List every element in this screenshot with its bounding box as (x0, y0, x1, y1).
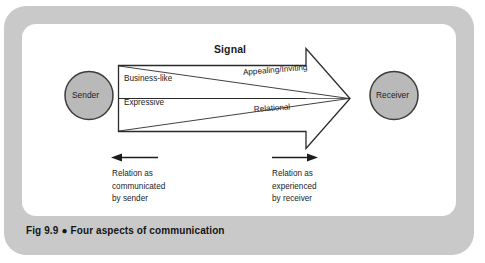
note-line: Relation as (112, 168, 165, 181)
caption-bullet-icon: ● (58, 225, 70, 236)
note-line: by sender (112, 193, 165, 206)
figure-container: Sender Receiver Signal Business-like Exp… (0, 0, 485, 263)
caption-number: Fig 9.9 (26, 225, 58, 236)
signal-arrow-label: Signal (214, 44, 246, 55)
figure-caption: Fig 9.9●Four aspects of communication (26, 225, 225, 236)
note-relation-experienced-by-receiver: Relation as experienced by receiver (272, 168, 317, 206)
note-relation-communicated-by-sender: Relation as communicated by sender (112, 168, 165, 206)
note-line: Relation as (272, 168, 317, 181)
note-line: experienced (272, 181, 317, 194)
sender-node-label: Sender (72, 91, 99, 100)
aspect-label-business-like: Business-like (124, 75, 172, 84)
caption-title: Four aspects of communication (71, 225, 225, 236)
note-line: by receiver (272, 193, 317, 206)
aspect-label-expressive: Expressive (124, 99, 164, 108)
note-arrow-right (272, 154, 318, 162)
communication-diagram (0, 0, 485, 263)
note-arrow-left (111, 154, 158, 162)
note-line: communicated (112, 181, 165, 194)
receiver-node-label: Receiver (376, 91, 409, 100)
